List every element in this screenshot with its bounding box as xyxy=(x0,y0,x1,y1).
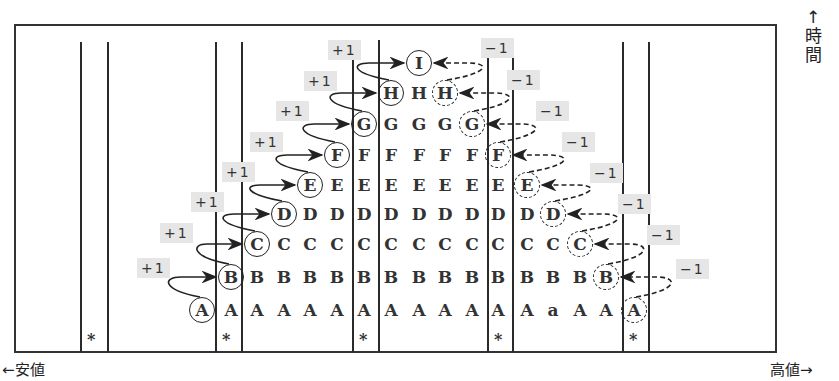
letter-d: D xyxy=(432,201,458,227)
letter-e: E xyxy=(351,172,377,198)
asterisk-marker: * xyxy=(222,330,230,349)
letter-a: A xyxy=(593,297,619,323)
letter-e: E xyxy=(378,172,404,198)
letter-b: B xyxy=(514,264,540,290)
letter-b: B xyxy=(485,264,511,290)
letter-a: A xyxy=(324,297,350,323)
dashed-circled-letter-c: C xyxy=(567,231,593,257)
circled-letter-g: G xyxy=(351,111,377,137)
letter-a: A xyxy=(432,297,458,323)
letter-c: C xyxy=(406,231,432,257)
minus-one-badge: −1 xyxy=(676,259,709,279)
column-divider-line xyxy=(107,42,109,352)
dashed-circled-letter-a: A xyxy=(621,297,647,323)
letter-d: D xyxy=(324,201,350,227)
circled-letter-f: F xyxy=(324,142,350,168)
letter-b: B xyxy=(459,264,485,290)
dashed-circled-letter-g: G xyxy=(459,111,485,137)
dashed-circled-letter-f: F xyxy=(485,142,511,168)
plus-one-badge: +1 xyxy=(276,101,309,121)
letter-a: A xyxy=(459,297,485,323)
x-axis-high-label: 高値→ xyxy=(770,358,813,379)
letter-a: A xyxy=(485,297,511,323)
minus-one-badge: −1 xyxy=(618,194,651,214)
letter-d: D xyxy=(514,201,540,227)
letter-b: B xyxy=(378,264,404,290)
letter-c: C xyxy=(378,231,404,257)
letter-a: A xyxy=(244,297,270,323)
letter-b: B xyxy=(567,264,593,290)
letter-c: C xyxy=(485,231,511,257)
letter-a: A xyxy=(218,297,244,323)
letter-b: B xyxy=(406,264,432,290)
x-axis-low-label: ←安値 xyxy=(2,358,45,379)
minus-one-badge: −1 xyxy=(536,101,569,121)
letter-d: D xyxy=(485,201,511,227)
letter-d: D xyxy=(378,201,404,227)
letter-b: B xyxy=(351,264,377,290)
letter-f: F xyxy=(378,142,404,168)
minus-one-badge: −1 xyxy=(507,70,540,90)
letter-f: F xyxy=(459,142,485,168)
column-divider-line xyxy=(80,42,82,352)
letter-d: D xyxy=(459,201,485,227)
letter-d: D xyxy=(351,201,377,227)
letter-c: C xyxy=(459,231,485,257)
letter-a: a xyxy=(540,297,566,323)
circled-letter-e: E xyxy=(297,172,323,198)
letter-f: F xyxy=(406,142,432,168)
asterisk-marker: * xyxy=(359,330,367,349)
letter-c: C xyxy=(271,231,297,257)
letter-a: A xyxy=(271,297,297,323)
letter-f: F xyxy=(351,142,377,168)
letter-c: C xyxy=(514,231,540,257)
circled-letter-c: C xyxy=(244,231,270,257)
letter-a: A xyxy=(406,297,432,323)
dashed-circled-letter-b: B xyxy=(593,264,619,290)
dashed-circled-letter-e: E xyxy=(514,172,540,198)
letter-a: A xyxy=(378,297,404,323)
letter-e: E xyxy=(459,172,485,198)
plus-one-badge: +1 xyxy=(160,223,193,243)
plus-one-badge: +1 xyxy=(222,162,255,182)
letter-b: B xyxy=(297,264,323,290)
letter-c: C xyxy=(297,231,323,257)
letter-a: A xyxy=(567,297,593,323)
letter-g: G xyxy=(406,111,432,137)
letter-e: E xyxy=(485,172,511,198)
dashed-circled-letter-h: H xyxy=(432,80,458,106)
letter-c: C xyxy=(432,231,458,257)
letter-b: B xyxy=(244,264,270,290)
letter-h: H xyxy=(406,80,432,106)
letter-f: F xyxy=(432,142,458,168)
letter-c: C xyxy=(540,231,566,257)
y-axis-time-label: ↑ 時 間 xyxy=(803,8,823,65)
asterisk-marker: * xyxy=(629,330,637,349)
minus-one-badge: −1 xyxy=(590,163,623,183)
letter-g: G xyxy=(378,111,404,137)
letter-e: E xyxy=(406,172,432,198)
letter-c: C xyxy=(351,231,377,257)
minus-one-badge: −1 xyxy=(562,132,595,152)
circled-letter-i: I xyxy=(406,50,432,76)
letter-d: D xyxy=(297,201,323,227)
letter-b: B xyxy=(271,264,297,290)
letter-b: B xyxy=(432,264,458,290)
letter-a: A xyxy=(514,297,540,323)
letter-c: C xyxy=(324,231,350,257)
plus-one-badge: +1 xyxy=(328,40,361,60)
plus-one-badge: +1 xyxy=(137,258,170,278)
letter-d: D xyxy=(406,201,432,227)
plus-one-badge: +1 xyxy=(191,192,224,212)
asterisk-marker: * xyxy=(87,330,95,349)
circled-letter-b: B xyxy=(218,264,244,290)
plus-one-badge: +1 xyxy=(304,71,337,91)
plus-one-badge: +1 xyxy=(250,132,283,152)
y-label-char-1: 時 xyxy=(803,27,823,46)
letter-b: B xyxy=(540,264,566,290)
letter-g: G xyxy=(432,111,458,137)
circled-letter-a: A xyxy=(189,297,215,323)
circled-letter-h: H xyxy=(378,80,404,106)
letter-b: B xyxy=(324,264,350,290)
letter-a: A xyxy=(297,297,323,323)
